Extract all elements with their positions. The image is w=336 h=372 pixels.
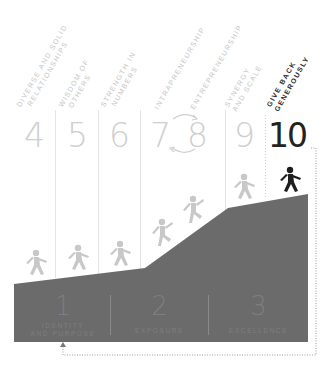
- figure-step-5-icon: [68, 245, 89, 270]
- stage-2: 2 EXPOSURE: [111, 292, 208, 335]
- stage-3: 3 EXCELLENCE: [209, 292, 308, 335]
- figure-step-8-icon: [183, 196, 204, 223]
- figure-step-6-icon: [110, 241, 131, 266]
- figure-step-10-icon: [280, 167, 301, 192]
- arrow-up-icon: [60, 342, 66, 347]
- step-number-8: 8: [187, 118, 208, 154]
- figure-step-7-icon: [152, 219, 173, 246]
- figure-step-9-icon: [234, 174, 255, 199]
- step-number-6: 6: [109, 118, 130, 154]
- step-number-7: 7: [150, 118, 171, 154]
- stage-1: 1 IDENTITY AND PURPOSE: [16, 292, 110, 338]
- step-diagram: DIVERSE AND SOLIDRELATIONSHIPS WISDOM OF…: [0, 0, 336, 372]
- step-number-5: 5: [67, 118, 88, 154]
- step-number-9: 9: [234, 118, 255, 154]
- figure-step-4-icon: [26, 250, 47, 275]
- step-number-4: 4: [24, 118, 45, 154]
- step-number-10: 10: [268, 118, 306, 154]
